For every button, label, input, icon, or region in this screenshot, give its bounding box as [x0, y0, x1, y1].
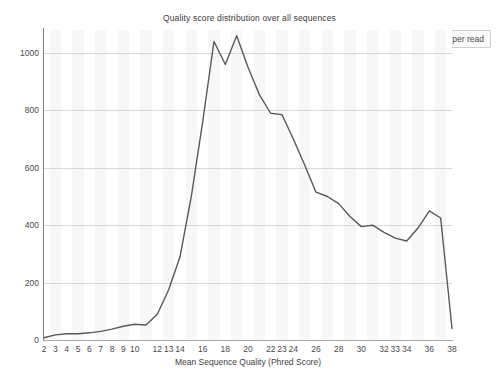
x-axis-line: [43, 340, 453, 341]
y-tick-label: 200: [25, 278, 39, 288]
y-tick-label: 1000: [20, 48, 39, 58]
x-tick-label: 2: [42, 344, 47, 354]
x-tick-label: 9: [121, 344, 126, 354]
series-line-layer: [44, 30, 452, 340]
x-tick-label: 10: [130, 344, 139, 354]
x-tick-label: 16: [198, 344, 207, 354]
x-axis-label: Mean Sequence Quality (Phred Score): [44, 357, 452, 367]
y-tick-label: 400: [25, 220, 39, 230]
x-tick-label: 8: [110, 344, 115, 354]
chart-container: Quality score distribution over all sequ…: [0, 0, 499, 378]
x-tick-label: 32: [379, 344, 388, 354]
x-tick-label: 5: [76, 344, 81, 354]
x-tick-label: 26: [311, 344, 320, 354]
x-tick-label: 3: [53, 344, 58, 354]
chart-title: Quality score distribution over all sequ…: [0, 13, 499, 23]
x-tick-label: 13: [164, 344, 173, 354]
x-tick-label: 20: [243, 344, 252, 354]
y-tick-label: 0: [34, 335, 39, 345]
x-tick-label: 38: [447, 344, 456, 354]
x-tick-label: 4: [64, 344, 69, 354]
x-tick-label: 12: [153, 344, 162, 354]
x-tick-label: 24: [289, 344, 298, 354]
x-tick-label: 14: [175, 344, 184, 354]
x-tick-label: 36: [425, 344, 434, 354]
x-tick-label: 23: [277, 344, 286, 354]
x-tick-label: 34: [402, 344, 411, 354]
x-tick-label: 22: [266, 344, 275, 354]
x-tick-label: 33: [391, 344, 400, 354]
x-tick-label: 18: [221, 344, 230, 354]
y-tick-label: 600: [25, 163, 39, 173]
x-tick-label: 28: [334, 344, 343, 354]
y-tick-label: 800: [25, 105, 39, 115]
x-tick-label: 7: [98, 344, 103, 354]
series-line-average-quality-per-read: [44, 36, 452, 338]
x-tick-label: 6: [87, 344, 92, 354]
x-tick-label: 30: [357, 344, 366, 354]
plot-area: 02004006008001000 2345678910121314161820…: [44, 30, 452, 340]
